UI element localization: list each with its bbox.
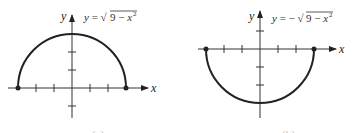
y-axis-label: y [60,9,67,23]
endpoint-right [312,47,317,52]
endpoint-right [124,86,129,91]
y-axis-label: y [248,9,255,23]
endpoint-left [16,86,21,91]
equation-b: y = − √ 9 − x 2 [271,11,333,24]
svg-text:y = √: y = √ [83,11,108,23]
svg-text:y = − √: y = − √ [271,12,305,24]
endpoint-left [204,47,209,52]
x-axis-label: x [150,81,157,95]
x-axis-label: x [338,42,345,56]
caption-b: (b) [282,128,295,133]
svg-text:9 − x: 9 − x [110,11,132,23]
svg-text:2: 2 [133,10,137,18]
svg-text:9 − x: 9 − x [306,12,328,24]
figure-a: x y y = √ 9 − x 2 (a) [8,9,157,133]
semicircle-figures: x y y = √ 9 − x 2 (a) x y [0,0,354,133]
figure-b: x y y = − √ 9 − x 2 (b) [198,9,345,133]
caption-a: (a) [92,128,105,133]
svg-text:2: 2 [329,11,333,19]
equation-a: y = √ 9 − x 2 [83,10,137,23]
